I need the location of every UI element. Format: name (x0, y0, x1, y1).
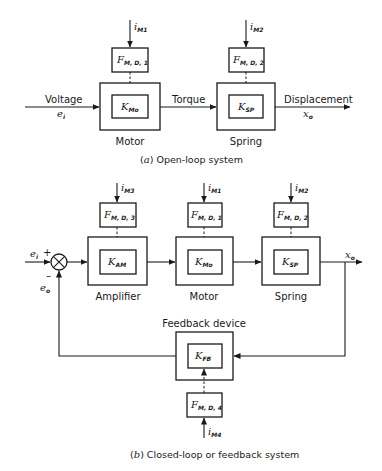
feedback-device-block: Feedback device KFB FM, D, 4 iM4 (162, 318, 246, 438)
spring-b-input-symbol: iM2 (295, 182, 308, 194)
amplifier-name: Amplifier (95, 291, 141, 302)
torque-label: Torque (171, 94, 205, 105)
open-loop-diagram: Voltage ei iM1 FM, D, 1 KMo Motor Torque… (25, 20, 353, 165)
output-symbol: xo (303, 108, 313, 120)
spring-block: iM2 FM, D, 2 KSP Spring (217, 20, 275, 147)
input-symbol: ei (57, 108, 66, 120)
amplifier-input-symbol: iM3 (121, 182, 134, 194)
spring-name: Spring (230, 136, 262, 147)
output-b-symbol: xo (345, 249, 355, 261)
feedback-input-symbol: iM4 (208, 426, 221, 438)
caption-a: (a) Open-loop system (140, 154, 243, 165)
spring-b-name: Spring (275, 291, 307, 302)
block-diagram: Voltage ei iM1 FM, D, 1 KMo Motor Torque… (0, 0, 382, 471)
output-label: Displacement (284, 94, 353, 105)
motor-block-b: iM1 FM, D, 1 KMo Motor (176, 182, 233, 302)
input-label: Voltage (45, 94, 83, 105)
minus-sign: – (46, 270, 51, 281)
motor-block: iM1 FM, D, 1 KMo Motor (100, 20, 160, 147)
reference-input-symbol: ei (30, 248, 39, 260)
closed-loop-diagram: ei + – eo iM3 FM, D, 3 KAM Amplifier iM1 (25, 182, 362, 460)
summing-junction (51, 254, 67, 270)
feedback-device-name: Feedback device (162, 318, 246, 329)
motor-b-input-symbol: iM1 (208, 182, 221, 194)
caption-b: (b) Closed-loop or feedback system (130, 449, 299, 460)
motor-name: Motor (116, 136, 146, 147)
spring-input-symbol: iM2 (250, 21, 263, 33)
plus-sign: + (43, 247, 51, 258)
feedback-symbol: eo (40, 282, 50, 294)
amplifier-block: iM3 FM, D, 3 KAM Amplifier (88, 182, 147, 302)
motor-b-name: Motor (190, 291, 220, 302)
spring-block-b: iM2 FM, D, 2 KSP Spring (262, 182, 320, 302)
motor-input-symbol: iM1 (134, 21, 147, 33)
